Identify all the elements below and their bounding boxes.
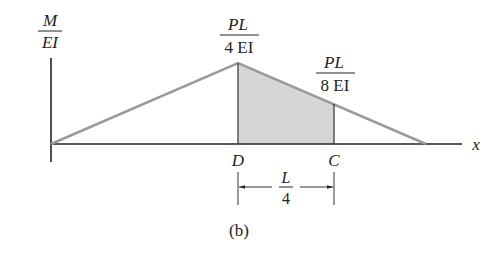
caption: (b) (229, 221, 249, 240)
x-axis-label: x (471, 135, 480, 154)
y-label-denominator: EI (41, 33, 59, 52)
dim-numerator: L (281, 169, 291, 186)
shaded-area (238, 63, 334, 144)
moment-diagram: M EI PL 4 EI PL 8 EI x D C L 4 (b) (0, 0, 501, 254)
c-label-numerator: PL (323, 53, 344, 72)
y-label-numerator: M (42, 11, 58, 30)
peak-label-denominator: 4 EI (225, 38, 254, 57)
dim-denominator: 4 (282, 190, 290, 207)
peak-label-numerator: PL (227, 15, 248, 34)
point-d-label: D (231, 151, 245, 170)
c-label-denominator: 8 EI (321, 76, 350, 95)
point-c-label: C (328, 151, 340, 170)
